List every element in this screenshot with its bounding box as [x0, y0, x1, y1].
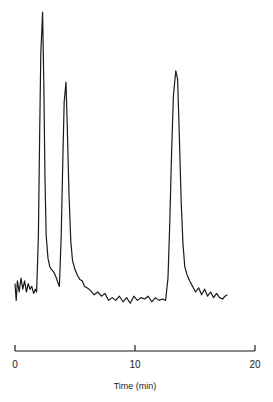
x-axis-ticks [15, 345, 255, 351]
x-tick-label: 20 [249, 359, 260, 370]
x-axis-title: Time (min) [114, 381, 157, 391]
chromatogram-trace [15, 12, 227, 303]
chromatogram-chart [0, 0, 273, 402]
x-tick-label: 0 [12, 359, 18, 370]
x-tick-label: 10 [129, 359, 140, 370]
